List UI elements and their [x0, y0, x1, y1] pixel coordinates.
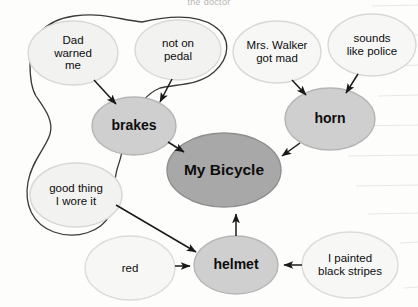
- arrow-mrs-walker-got-mad-to-horn: [292, 80, 306, 95]
- arrow-dad-warned-me-to-brakes: [94, 80, 116, 104]
- arrow-horn-to-my-bicycle: [282, 143, 300, 156]
- node-red[interactable]: [85, 236, 175, 300]
- node-sounds-like-police[interactable]: [328, 14, 416, 76]
- node-mrs-walker-got-mad[interactable]: [233, 21, 321, 83]
- node-horn[interactable]: [285, 88, 375, 150]
- node-good-thing-i-wore-it[interactable]: [30, 163, 122, 227]
- node-helmet[interactable]: [194, 236, 278, 294]
- node-my-bicycle[interactable]: [167, 133, 281, 207]
- node-i-painted-black-stripes[interactable]: [302, 232, 398, 298]
- arrow-sounds-like-police-to-horn: [346, 74, 358, 93]
- concept-map-artboard: [0, 0, 418, 307]
- concept-map-canvas: the doctor: [0, 0, 418, 307]
- node-not-on-pedal[interactable]: [135, 20, 221, 80]
- node-brakes[interactable]: [92, 97, 176, 155]
- node-dad-warned-me[interactable]: [28, 21, 118, 85]
- arrow-not-on-pedal-to-brakes: [160, 79, 172, 102]
